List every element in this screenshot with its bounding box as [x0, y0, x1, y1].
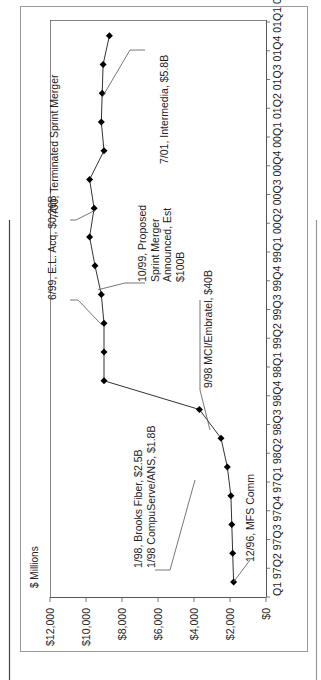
x-tick-label: Q3 99 — [271, 280, 283, 309]
annotation-label: 1/98, Brooks Fiber, $2.5B — [132, 450, 144, 568]
x-tick-label: Q4 97 — [271, 481, 283, 510]
annotation-label: 12/96, MFS Comm — [244, 474, 256, 562]
x-tick-label: Q3 01 — [271, 50, 283, 79]
y-tick-label: $0 — [260, 608, 272, 620]
x-tick-label: Q3 98 — [271, 395, 283, 424]
data-point-diamond — [98, 291, 105, 298]
annotation-label: 10/99, Proposed — [136, 205, 148, 282]
x-tick-label: Q2 98 — [271, 423, 283, 452]
y-tick-label: $10,000 — [80, 608, 92, 646]
annotation-label: 1/98 CompuServe/ANS, $1.8B — [145, 426, 157, 568]
y-axis-label: $ Millions — [29, 546, 40, 588]
annotation-leader-line — [78, 300, 102, 325]
annotation-leader-line — [234, 560, 250, 582]
data-point-diamond — [98, 119, 105, 126]
annotation-leader-line — [98, 283, 125, 290]
y-tick-label: $12,000 — [44, 608, 56, 646]
annotations: 12/96, MFS Comm1/98, Brooks Fiber, $2.5B… — [46, 50, 256, 582]
y-tick-label: $2,000 — [224, 608, 236, 640]
data-point-diamond — [106, 32, 113, 39]
x-tick-label: Q1 99 — [271, 337, 283, 366]
annotation-leader-line — [170, 480, 195, 570]
line-chart: Q1 97Q2 97Q3 97Q4 97Q1 98Q2 98Q3 98Q4 98… — [0, 0, 321, 680]
data-point-diamond — [224, 464, 231, 471]
x-tick-label: Q1 01 — [271, 107, 283, 136]
data-point-diamond — [101, 147, 108, 154]
annotation-label: Sprint Merger — [149, 218, 161, 282]
data-point-diamond — [92, 262, 99, 269]
x-tick-label: Q3 97 — [271, 510, 283, 539]
x-tick-label: Q2 99 — [271, 308, 283, 337]
data-point-diamond — [229, 550, 236, 557]
x-tick-label: Q1 02 — [271, 0, 283, 21]
x-tick-label: Q2 01 — [271, 78, 283, 107]
data-point-diamond — [101, 349, 108, 356]
annotation-leader-line — [102, 50, 130, 97]
data-point-diamond — [101, 377, 108, 384]
data-point-diamond — [86, 176, 93, 183]
data-point-diamond — [227, 492, 234, 499]
x-tick-label: Q1 97 — [271, 567, 283, 596]
x-tick-label: Q3 00 — [271, 165, 283, 194]
x-tick-label: Q4 00 — [271, 136, 283, 165]
data-point-diamond — [86, 234, 93, 241]
annotation-label: Announced, Est — [161, 208, 173, 282]
annotation-label: 7/01, Intermedia, $5.8B — [158, 55, 170, 164]
x-tick-label: Q4 99 — [271, 251, 283, 280]
chart-figure: Q1 97Q2 97Q3 97Q4 97Q1 98Q2 98Q3 98Q4 98… — [0, 0, 321, 680]
x-tick-label: Q2 00 — [271, 193, 283, 222]
data-point-diamond — [100, 61, 107, 68]
x-tick-label: Q4 01 — [271, 21, 283, 50]
y-tick-label: $8,000 — [116, 608, 128, 640]
annotation-label: 7/00, Terminated Sprint Merger — [48, 74, 60, 219]
x-tick-label: Q1 98 — [271, 452, 283, 481]
y-tick-label: $4,000 — [188, 608, 200, 640]
annotation-label: $100B — [174, 252, 186, 282]
y-tick-label: $6,000 — [152, 608, 164, 640]
annotation-label: 9/98 MCI/Embratel, $40B — [202, 270, 214, 388]
data-point-diamond — [228, 521, 235, 528]
x-tick-label: Q1 00 — [271, 222, 283, 251]
data-point-diamond — [101, 320, 108, 327]
x-tick-label: Q4 98 — [271, 366, 283, 395]
x-tick-label: Q2 97 — [271, 538, 283, 567]
